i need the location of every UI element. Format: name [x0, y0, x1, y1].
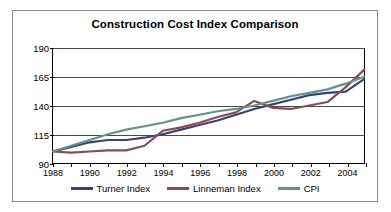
chart-title: Construction Cost Index Comparison [13, 18, 377, 30]
x-axis-tick-mark [274, 163, 275, 167]
y-axis-tick-label: 190 [33, 43, 49, 54]
chart-frame: Construction Cost Index Comparison 90115… [12, 10, 378, 202]
x-axis-tick-mark [292, 163, 293, 167]
x-axis-tick-mark [163, 163, 164, 167]
x-axis-tick-mark [90, 163, 91, 167]
x-axis-tick-mark [127, 163, 128, 167]
legend-item[interactable]: Turner Index [71, 183, 151, 194]
x-axis-tick-label: 1990 [80, 168, 100, 178]
legend-label: CPI [304, 183, 320, 194]
legend-label: Linneman Index [193, 183, 261, 194]
x-axis-tick-mark [237, 163, 238, 167]
y-axis-tick-label: 115 [34, 130, 49, 141]
y-axis-tick-label: 140 [33, 101, 49, 112]
chart-legend: Turner IndexLinneman IndexCPI [13, 183, 377, 194]
x-axis-tick-label: 1996 [190, 168, 210, 178]
x-axis-tick-label: 2000 [264, 168, 284, 178]
legend-swatch-icon [278, 187, 300, 190]
legend-swatch-icon [71, 187, 93, 190]
x-axis-tick-label: 2002 [301, 168, 321, 178]
x-axis-tick-label: 1998 [227, 168, 247, 178]
x-axis-tick-mark [108, 163, 109, 167]
x-axis-tick-mark [366, 163, 367, 167]
x-axis-tick-mark [219, 163, 220, 167]
x-axis-tick-mark [71, 163, 72, 167]
x-axis-tick-mark [348, 163, 349, 167]
x-axis-tick-mark [256, 163, 257, 167]
x-axis-tick-label: 2004 [338, 168, 358, 178]
x-axis-tick-mark [311, 163, 312, 167]
plot-area: 90115140165190 1988199019921994199619982… [52, 48, 365, 164]
y-axis-tick-label: 165 [33, 72, 49, 83]
x-axis-tick-mark [200, 163, 201, 167]
series-line-turner-index [53, 79, 364, 151]
series-lines [53, 48, 364, 163]
x-axis-tick-label: 1992 [117, 168, 137, 178]
legend-item[interactable]: CPI [278, 183, 320, 194]
x-axis-tick-label: 1988 [43, 168, 63, 178]
legend-item[interactable]: Linneman Index [167, 183, 261, 194]
x-axis-tick-mark [182, 163, 183, 167]
legend-swatch-icon [167, 187, 189, 190]
x-axis-tick-mark [329, 163, 330, 167]
x-axis-tick-mark [145, 163, 146, 167]
legend-label: Turner Index [97, 183, 151, 194]
x-axis-tick-label: 1994 [153, 168, 173, 178]
x-axis-tick-mark [53, 163, 54, 167]
